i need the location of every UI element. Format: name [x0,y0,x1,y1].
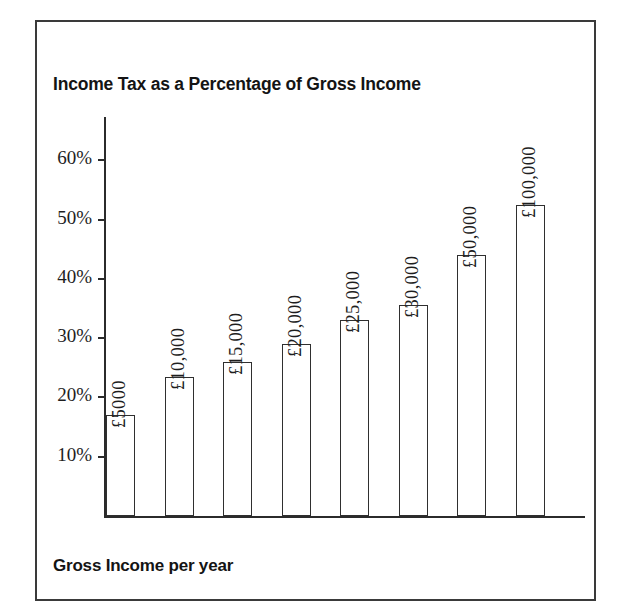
y-axis-tick-label: 50% [30,207,92,229]
bar-category-label: £20,000 [285,295,306,357]
y-axis-tick-mark [98,278,106,280]
bar-category-label: £25,000 [343,271,364,333]
y-axis-tick-label: 40% [30,266,92,288]
chart-page: Income Tax as a Percentage of Gross Inco… [0,0,617,609]
y-axis-tick-mark [98,456,106,458]
bar-category-label: £10,000 [168,327,189,389]
bar-category-label: £100,000 [519,146,540,218]
y-axis-tick-label: 60% [30,147,92,169]
bar [165,377,194,516]
bar [282,344,311,516]
bar [106,415,135,516]
x-axis-line [104,516,585,518]
bar [399,305,428,516]
y-axis-tick-label: 20% [30,384,92,406]
bar-category-label: £15,000 [226,313,247,375]
y-axis-tick-label: 30% [30,325,92,347]
bar [223,362,252,516]
y-axis-tick-mark [98,219,106,221]
y-axis-tick-mark [98,396,106,398]
y-axis-tick-label: 10% [30,444,92,466]
y-axis-tick-mark [98,337,106,339]
bar-category-label: £5000 [109,380,130,428]
bar-category-label: £30,000 [402,256,423,318]
plot-area: 10%20%30%40%50%60% £5000£10,000£15,000£2… [0,0,617,609]
y-axis-tick-mark [98,159,106,161]
bar [516,205,545,516]
bar [457,255,486,516]
bar [340,320,369,516]
bar-category-label: £50,000 [460,206,481,268]
x-axis-caption: Gross Income per year [53,556,233,576]
